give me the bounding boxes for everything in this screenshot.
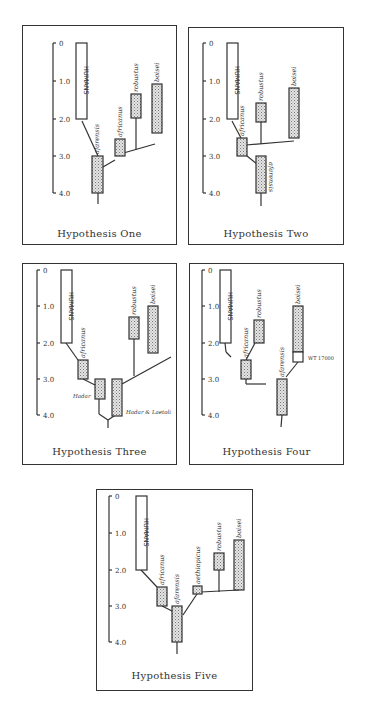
phylogeny-diagram-two: 0 1.0 2.0 3.0 4.0 HUMANS africanus robus… <box>189 28 345 246</box>
svg-text:africanus: africanus <box>158 554 166 585</box>
svg-text:afarensis: afarensis <box>267 162 275 193</box>
panel-title: Hypothesis Two <box>189 228 343 239</box>
svg-text:HUMANS: HUMANS <box>67 292 75 321</box>
taxon-bar-boisei <box>289 88 299 138</box>
panel-hypothesis-five: 0 1.0 2.0 3.0 4.0 HUMANS africanus afare… <box>96 489 253 691</box>
svg-text:boisei: boisei <box>153 63 161 82</box>
taxon-bar-aethiopicus <box>193 586 202 594</box>
svg-text:4.0: 4.0 <box>59 190 70 198</box>
svg-text:boisei: boisei <box>294 285 302 304</box>
taxon-bar-africanus <box>157 587 167 606</box>
taxon-bar-africanus <box>237 138 247 156</box>
taxon-bar-boisei <box>234 540 244 590</box>
svg-text:HUMANS: HUMANS <box>233 66 241 95</box>
svg-text:afarensis: afarensis <box>173 573 181 604</box>
svg-text:africanus: africanus <box>242 327 250 358</box>
taxon-bar-hadar <box>95 379 105 399</box>
svg-text:2.0: 2.0 <box>59 116 70 124</box>
svg-text:africanus: africanus <box>238 105 246 136</box>
svg-text:2.0: 2.0 <box>208 340 219 348</box>
svg-text:1.0: 1.0 <box>208 303 219 311</box>
panel-title: Hypothesis Four <box>190 446 343 457</box>
taxon-bar-africanus <box>115 139 125 156</box>
svg-text:1.0: 1.0 <box>209 78 220 86</box>
svg-text:0: 0 <box>43 267 47 275</box>
svg-text:4.0: 4.0 <box>209 190 220 198</box>
svg-text:3.0: 3.0 <box>209 153 220 161</box>
taxon-bar-robustus <box>256 103 266 122</box>
svg-text:2.0: 2.0 <box>115 567 126 575</box>
svg-text:robustus: robustus <box>255 288 263 318</box>
svg-text:boisei: boisei <box>290 67 298 86</box>
taxon-bar-afarensis <box>172 606 182 642</box>
svg-text:0: 0 <box>115 493 119 501</box>
taxon-bar-boisei <box>152 84 162 133</box>
svg-text:afarensis: afarensis <box>93 123 101 154</box>
panel-title: Hypothesis Five <box>97 670 252 681</box>
svg-text:robustus: robustus <box>132 62 140 92</box>
svg-text:1.0: 1.0 <box>59 78 70 86</box>
phylogeny-diagram-one: 0 1.0 2.0 3.0 4.0 HUMANS afarensis afric… <box>23 26 178 246</box>
svg-text:robustus: robustus <box>130 285 138 315</box>
svg-text:3.0: 3.0 <box>115 603 126 611</box>
svg-text:HUMANS: HUMANS <box>82 66 90 95</box>
svg-text:WT 17000: WT 17000 <box>308 355 334 361</box>
svg-text:2.0: 2.0 <box>43 340 54 348</box>
taxon-bar-wt17000 <box>293 352 303 362</box>
panel-hypothesis-four: 0 1.0 2.0 3.0 4.0 HUMANS africanus robus… <box>189 263 344 465</box>
svg-text:robustus: robustus <box>257 71 265 101</box>
panel-title: Hypothesis Three <box>23 446 176 457</box>
taxon-bar-hadar-laetoli <box>112 379 122 416</box>
svg-text:boisei: boisei <box>235 519 243 538</box>
panel-title: Hypothesis One <box>23 228 176 239</box>
svg-text:HUMANS: HUMANS <box>226 292 234 321</box>
svg-text:1.0: 1.0 <box>43 303 54 311</box>
svg-text:4.0: 4.0 <box>115 639 126 647</box>
svg-text:3.0: 3.0 <box>43 376 54 384</box>
svg-text:africanus: africanus <box>116 106 124 137</box>
taxon-bar-boisei <box>148 306 158 353</box>
taxon-bar-afarensis <box>92 156 103 193</box>
taxon-bar-boisei <box>293 306 303 352</box>
taxon-bar-robustus <box>129 317 139 339</box>
svg-text:robustus: robustus <box>215 521 223 551</box>
svg-text:Hadar & Laetoli: Hadar & Laetoli <box>125 409 171 415</box>
taxon-bar-robustus <box>131 94 141 118</box>
taxon-bar-afarensis <box>277 379 287 415</box>
svg-text:4.0: 4.0 <box>43 412 54 420</box>
phylogeny-diagram-three: 0 1.0 2.0 3.0 4.0 HUMANS africanus Hadar… <box>23 264 178 466</box>
svg-text:aethiopicus: aethiopicus <box>194 545 202 584</box>
svg-text:0: 0 <box>59 40 63 48</box>
panel-hypothesis-two: 0 1.0 2.0 3.0 4.0 HUMANS africanus robus… <box>188 27 344 245</box>
svg-text:HUMANS: HUMANS <box>142 518 150 547</box>
taxon-bar-robustus <box>214 553 224 570</box>
svg-text:africanus: africanus <box>79 327 87 358</box>
svg-text:boisei: boisei <box>149 285 157 304</box>
taxon-bar-africanus <box>78 360 88 379</box>
svg-text:0: 0 <box>209 40 213 48</box>
svg-text:3.0: 3.0 <box>59 153 70 161</box>
svg-text:3.0: 3.0 <box>208 376 219 384</box>
panel-hypothesis-three: 0 1.0 2.0 3.0 4.0 HUMANS africanus Hadar… <box>22 263 177 465</box>
phylogeny-diagram-four: 0 1.0 2.0 3.0 4.0 HUMANS africanus robus… <box>190 264 345 466</box>
svg-text:afarensis: afarensis <box>278 346 286 377</box>
svg-text:2.0: 2.0 <box>209 116 220 124</box>
svg-text:Hadar: Hadar <box>72 393 91 399</box>
svg-text:4.0: 4.0 <box>208 412 219 420</box>
panel-hypothesis-one: 0 1.0 2.0 3.0 4.0 HUMANS afarensis afric… <box>22 25 177 245</box>
svg-text:0: 0 <box>208 267 212 275</box>
taxon-bar-africanus <box>241 360 251 379</box>
svg-text:1.0: 1.0 <box>115 530 126 538</box>
taxon-bar-robustus <box>254 320 264 343</box>
phylogeny-diagram-five: 0 1.0 2.0 3.0 4.0 HUMANS africanus afare… <box>97 490 254 692</box>
taxon-bar-afarensis <box>256 156 266 193</box>
